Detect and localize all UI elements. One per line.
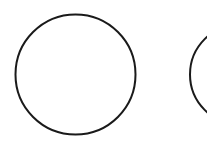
diagram-canvas (0, 0, 207, 147)
left-circle (16, 15, 136, 135)
right-circle-partial (190, 25, 207, 125)
circles-diagram (0, 0, 207, 147)
